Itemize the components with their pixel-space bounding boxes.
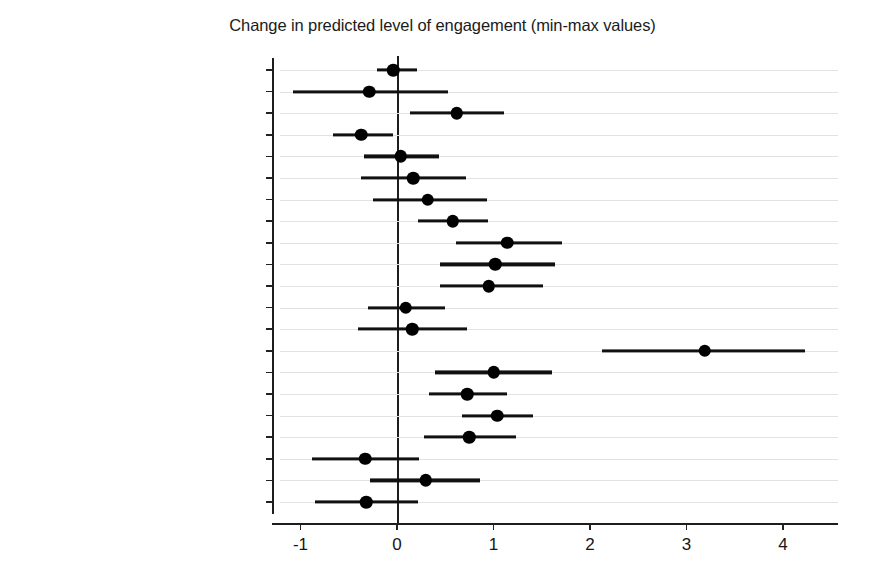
y-axis-tick bbox=[266, 285, 273, 287]
y-axis-tick bbox=[266, 177, 273, 179]
x-axis-tick-label: 4 bbox=[778, 535, 787, 555]
point-estimate-marker bbox=[399, 301, 412, 314]
y-axis-tick bbox=[266, 199, 273, 201]
y-axis-tick bbox=[266, 307, 273, 309]
y-axis-tick bbox=[266, 91, 273, 93]
point-estimate-marker bbox=[359, 453, 372, 466]
gridline bbox=[280, 70, 838, 71]
y-axis-tick bbox=[266, 393, 273, 395]
forest-plot-figure: Change in predicted level of engagement … bbox=[0, 0, 885, 585]
x-axis-line bbox=[272, 523, 838, 525]
gridline bbox=[280, 394, 838, 395]
y-axis-tick bbox=[266, 242, 273, 244]
point-estimate-marker bbox=[420, 474, 433, 487]
point-estimate-marker bbox=[355, 129, 368, 142]
gridline bbox=[280, 372, 838, 373]
x-axis-tick-label: 1 bbox=[489, 535, 498, 555]
zero-reference-line bbox=[397, 56, 399, 523]
y-axis-tick bbox=[266, 264, 273, 266]
point-estimate-marker bbox=[461, 388, 474, 401]
gridline bbox=[280, 416, 838, 417]
point-estimate-marker bbox=[491, 409, 504, 422]
point-estimate-marker bbox=[451, 107, 464, 120]
point-estimate-marker bbox=[406, 323, 419, 336]
gridline bbox=[280, 286, 838, 287]
y-axis-tick bbox=[266, 480, 273, 482]
y-axis-tick bbox=[266, 134, 273, 136]
gridline bbox=[280, 200, 838, 201]
x-axis-tick bbox=[493, 523, 495, 530]
x-axis-tick bbox=[300, 523, 302, 530]
gridline bbox=[280, 113, 838, 114]
x-axis-tick bbox=[686, 523, 688, 530]
x-axis-tick bbox=[782, 523, 784, 530]
point-estimate-marker bbox=[407, 172, 420, 185]
point-estimate-marker bbox=[487, 366, 500, 379]
point-estimate-marker bbox=[501, 237, 514, 250]
plot-area: -101234 bbox=[0, 0, 885, 585]
y-axis-tick bbox=[266, 458, 273, 460]
gridline bbox=[280, 221, 838, 222]
x-axis-tick bbox=[396, 523, 398, 530]
y-axis-tick bbox=[266, 372, 273, 374]
point-estimate-marker bbox=[395, 150, 408, 163]
point-estimate-marker bbox=[363, 85, 376, 98]
gridline bbox=[280, 480, 838, 481]
y-axis-tick bbox=[266, 156, 273, 158]
point-estimate-marker bbox=[463, 431, 476, 444]
point-estimate-marker bbox=[422, 193, 435, 206]
y-axis-tick bbox=[266, 501, 273, 503]
point-estimate-marker bbox=[360, 496, 373, 509]
x-axis-tick-label: 2 bbox=[585, 535, 594, 555]
gridline bbox=[280, 437, 838, 438]
point-estimate-marker bbox=[489, 258, 502, 271]
y-axis-tick bbox=[266, 436, 273, 438]
x-axis-tick-label: 0 bbox=[392, 535, 401, 555]
x-axis-tick-label: 3 bbox=[682, 535, 691, 555]
point-estimate-marker bbox=[387, 64, 400, 77]
y-axis-tick bbox=[266, 69, 273, 71]
gridline bbox=[280, 308, 838, 309]
point-estimate-marker bbox=[447, 215, 460, 228]
x-axis-tick bbox=[589, 523, 591, 530]
y-axis-tick bbox=[266, 415, 273, 417]
point-estimate-marker bbox=[482, 280, 495, 293]
x-axis-tick-label: -1 bbox=[293, 535, 308, 555]
y-axis-tick bbox=[266, 112, 273, 114]
gridline bbox=[280, 264, 838, 265]
y-axis-tick bbox=[266, 220, 273, 222]
y-axis-tick bbox=[266, 328, 273, 330]
y-axis-tick bbox=[266, 350, 273, 352]
point-estimate-marker bbox=[699, 345, 712, 358]
